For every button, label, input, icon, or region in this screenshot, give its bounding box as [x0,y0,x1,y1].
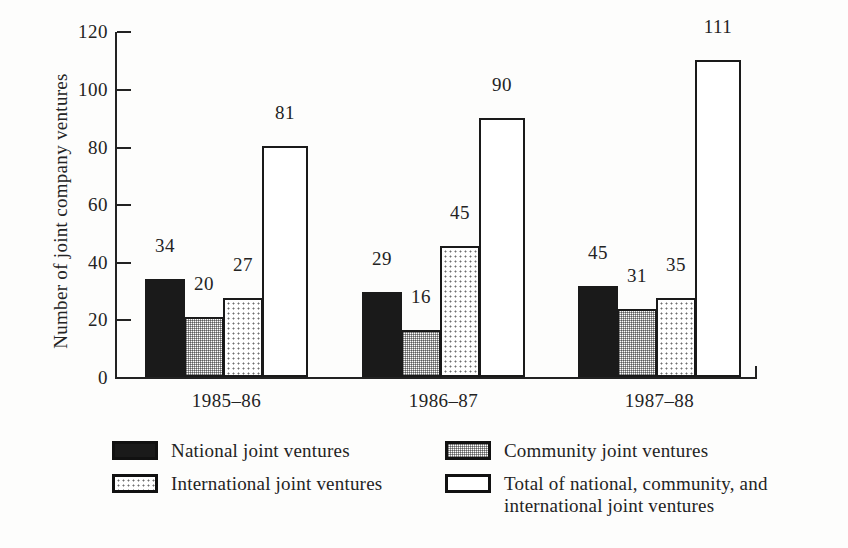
bar-1985-86-community [184,317,224,377]
bar-label-1986-87-total: 90 [479,75,525,94]
bar-label-1985-86-national: 34 [145,236,185,255]
bar-label-1985-86-total: 81 [262,103,308,122]
bar-label-1987-88-community: 31 [617,266,657,285]
legend-label-national: National joint ventures [171,440,350,462]
bar-1986-87-international [440,246,480,377]
x-category-label-1: 1985–86 [145,390,308,411]
legend-swatch-international-icon [112,474,158,493]
bar-1986-87-community [401,330,441,377]
bar-1987-88-community [617,309,657,377]
bar-1985-86-national [145,279,185,377]
bars-layer: 34 20 27 81 29 16 45 90 45 31 35 [0,0,848,377]
x-axis-line [115,377,757,379]
legend-label-international: International joint ventures [171,473,382,495]
bar-1987-88-international [656,298,696,377]
bar-1987-88-total [695,60,741,377]
bar-label-1986-87-national: 29 [362,249,402,268]
x-category-label-2: 1986–87 [362,390,525,411]
bar-label-1985-86-international: 27 [223,255,263,274]
bar-label-1987-88-total: 111 [695,17,741,36]
bar-1985-86-total [262,146,308,377]
legend-item-total: Total of national, community, and intern… [445,473,768,517]
legend-swatch-total-icon [445,474,491,493]
bar-chart: Number of joint company ventures 120 100… [0,0,848,430]
scanned-page: Number of joint company ventures 120 100… [0,0,848,548]
legend-swatch-community-icon [445,441,491,460]
bar-1986-87-national [362,292,402,377]
x-category-label-3: 1987–88 [578,390,741,411]
bar-1985-86-international [223,298,263,377]
bar-label-1986-87-international: 45 [440,203,480,222]
bar-label-1986-87-community: 16 [401,287,441,306]
legend-swatch-national-icon [112,441,158,460]
bar-label-1987-88-international: 35 [656,255,696,274]
bar-label-1987-88-national: 45 [578,243,618,262]
legend-label-total: Total of national, community, and intern… [504,473,768,517]
bar-1987-88-national [578,286,618,377]
bar-label-1985-86-community: 20 [184,274,224,293]
legend-item-national: National joint ventures [112,440,350,462]
chart-legend: National joint ventures International jo… [112,440,812,540]
bar-1986-87-total [479,118,525,377]
legend-item-community: Community joint ventures [445,440,708,462]
legend-item-international: International joint ventures [112,473,382,495]
legend-label-community: Community joint ventures [504,440,708,462]
